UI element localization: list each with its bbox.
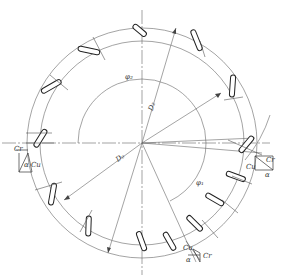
blade: [186, 215, 204, 233]
blade: [190, 29, 203, 51]
label-bottom-cu: Cu: [183, 244, 193, 252]
label-phi-top: φ₂: [125, 73, 133, 81]
label-phi-bottom: φ₁: [196, 179, 204, 187]
blade: [78, 46, 101, 55]
diameter-line-d0: [64, 143, 142, 200]
blade-ring-drawing: φ₂ D₂ D₀ φ₁ Cr Cu α Cr Cu α Cu Cr α: [0, 0, 285, 279]
label-bottom-alpha: α: [186, 256, 191, 264]
label-d2: D₂: [146, 101, 157, 113]
label-left-alpha: α: [24, 161, 29, 169]
blade: [132, 23, 147, 37]
blade: [40, 79, 62, 94]
label-left-cr: Cr: [14, 145, 23, 153]
blade: [229, 75, 236, 97]
blade: [162, 231, 176, 251]
label-left-cu: Cu: [31, 161, 41, 169]
radial-line-right2: [142, 138, 255, 143]
inner-arc-lower: [170, 143, 206, 201]
diameter-line-d1: [142, 93, 221, 143]
label-right-cu: Cu: [246, 163, 256, 171]
label-bottom-cr: Cr: [203, 252, 212, 260]
label-right-cr: Cr: [266, 156, 275, 164]
blade: [86, 216, 92, 236]
blade: [205, 192, 225, 206]
label-right-alpha: α: [265, 171, 270, 179]
blade: [136, 231, 148, 252]
